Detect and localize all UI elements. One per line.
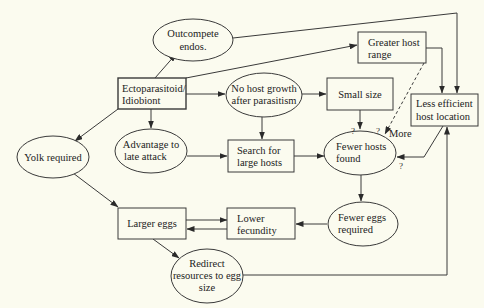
node-nogrowth-line2: after parasitism (231, 95, 296, 106)
node-ecto-line2: Idiobiont (122, 95, 161, 106)
node-fewerhosts: Fewer hosts found (324, 131, 396, 175)
node-redirect: Redirect resources to egg size (171, 249, 243, 303)
edge-greater-lessefficient (426, 48, 442, 93)
node-redirect-line2: resources to egg (173, 270, 242, 281)
edge-label-more: More (389, 128, 412, 139)
node-nogrowth-line1: No host growth (231, 83, 297, 94)
node-fewerhosts-line1: Fewer hosts (336, 141, 386, 152)
node-search-line1: Search for (237, 145, 281, 156)
flowchart-canvas: Outcompete endos. Ectoparasitoid/ Idiobi… (0, 0, 484, 308)
node-greater-line2: range (368, 49, 392, 60)
node-nogrowth: No host growth after parasitism (226, 73, 302, 117)
node-ecto: Ectoparasitoid/ Idiobiont (118, 78, 186, 109)
node-lowerfec-line2: fecundity (237, 225, 277, 236)
node-largereggs-line1: Larger eggs (127, 218, 177, 229)
node-fewereggs-line2: required (338, 224, 374, 235)
edge-largereggs-redirect (153, 239, 179, 258)
node-outcompete-line1: Outcompete (167, 28, 219, 39)
node-advantage: Advantage to late attack (115, 129, 187, 173)
node-redirect-line1: Redirect (189, 258, 225, 269)
node-smallsize: Small size (327, 78, 393, 110)
edge-label-question-dashed: ? (376, 126, 380, 136)
edge-label-question-smallsize: ? (351, 126, 355, 136)
node-fewereggs-line1: Fewer eggs (338, 212, 386, 223)
node-advantage-line2: late attack (124, 151, 168, 162)
node-outcompete-line2: endos. (179, 41, 206, 52)
edge-yolk-largereggs (73, 173, 118, 207)
node-search: Search for large hosts (228, 140, 294, 172)
node-largereggs: Larger eggs (118, 208, 186, 239)
node-lowerfec-line1: Lower (237, 213, 265, 224)
node-search-line2: large hosts (237, 157, 282, 168)
node-ecto-line1: Ectoparasitoid/ (122, 83, 186, 94)
node-fewerhosts-line2: found (336, 153, 361, 164)
node-redirect-line3: size (199, 282, 216, 293)
edge-ecto-yolk (75, 109, 118, 141)
node-greater-line1: Greater host (368, 37, 420, 48)
node-greater: Greater host range (358, 32, 426, 63)
node-advantage-line1: Advantage to (123, 139, 179, 150)
node-outcompete: Outcompete endos. (153, 19, 233, 61)
node-yolk-line1: Yolk required (24, 152, 82, 163)
node-lessefficient-line2: host location (416, 111, 471, 122)
edge-label-question-lessefficient: ? (399, 161, 403, 171)
node-yolk: Yolk required (17, 136, 89, 178)
node-lessefficient-line1: Less efficient (416, 98, 473, 109)
node-fewereggs: Fewer eggs required (328, 202, 398, 246)
node-lowerfec: Lower fecundity (227, 208, 295, 239)
node-lessefficient: Less efficient host location (411, 94, 478, 126)
node-smallsize-line1: Small size (338, 89, 382, 100)
